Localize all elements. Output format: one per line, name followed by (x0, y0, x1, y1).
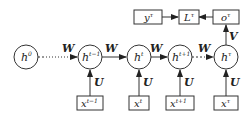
edge-xt-to-ht: U (139, 70, 154, 96)
node-h-t-plus-1: ht+1 (168, 45, 192, 69)
node-x-t: xt (129, 96, 149, 110)
node-h-tau: hτ (214, 45, 238, 69)
edge-xtp1-to-htp1: U (180, 70, 195, 96)
edge-label-u: U (143, 76, 154, 89)
node-h-t: ht (127, 45, 151, 69)
node-h-t-minus-1: ht−1 (78, 45, 102, 69)
node-x-t-minus-1: xt−1 (77, 96, 103, 110)
edge-label-u: U (230, 76, 241, 89)
edge-htp1-to-htau: W (192, 42, 213, 57)
edge-xtm1-to-htm1: U (90, 70, 105, 96)
edge-label-w: W (62, 42, 76, 55)
edge-h0-to-htm1: W (38, 42, 77, 57)
edge-label-w: W (150, 42, 164, 55)
rnn-diagram: W W W W U U U U V h0 (0, 0, 248, 118)
edge-label-w: W (198, 42, 212, 55)
node-h0: h0 (14, 45, 38, 69)
edge-label-v: V (229, 30, 239, 43)
node-x-tau: xτ (214, 96, 238, 110)
edge-label-u: U (184, 76, 195, 89)
edge-ht-to-htp1: W (150, 42, 167, 57)
node-x-t-plus-1: xt+1 (166, 96, 194, 110)
node-y-tau: yτ (134, 10, 162, 24)
node-l-tau: Lτ (179, 10, 199, 24)
edge-label-w: W (105, 42, 119, 55)
edge-xtau-to-htau: U (226, 70, 241, 96)
node-o-tau: oτ (213, 10, 239, 24)
edge-label-u: U (94, 76, 105, 89)
edge-htau-to-otau: V (226, 25, 239, 45)
edge-htm1-to-ht: W (102, 42, 126, 57)
